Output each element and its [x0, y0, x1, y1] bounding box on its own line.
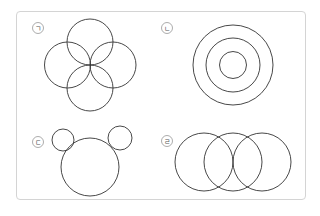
figure-label: ㄴ — [164, 25, 170, 33]
figure-rieul: ㄹ — [162, 133, 292, 191]
circle-shape — [67, 65, 113, 111]
circle-shape — [90, 42, 136, 88]
figure-label: ㄱ — [35, 25, 41, 33]
figure-label: ㄷ — [35, 139, 41, 147]
circle-shape — [67, 19, 113, 65]
circle-shape — [45, 42, 91, 88]
circle-shape — [193, 25, 273, 105]
figure-giyeok: ㄱ — [33, 19, 137, 111]
circle-shape — [61, 138, 119, 196]
circle-shape — [108, 126, 132, 150]
figure-label: ㄹ — [164, 138, 170, 146]
circle-shape — [52, 129, 74, 151]
circle-shape — [206, 38, 260, 92]
circle-shape — [220, 52, 247, 79]
figure-digeut: ㄷ — [33, 126, 133, 196]
figure-nieun: ㄴ — [162, 23, 274, 106]
circles-diagram: ㄱ ㄴ ㄷ ㄹ — [0, 0, 320, 216]
